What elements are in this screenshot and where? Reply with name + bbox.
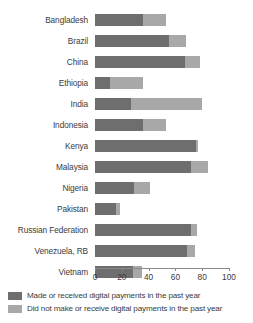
bar-segment-series-1	[143, 119, 166, 131]
bar-row: Russian Federation	[0, 219, 253, 240]
bar-row: Indonesia	[0, 114, 253, 135]
bar-segment-series-1	[116, 203, 120, 215]
bar-row: Venezuela, RB	[0, 240, 253, 261]
category-label: Venezuela, RB	[0, 240, 88, 261]
bar-segment-series-1	[185, 56, 200, 68]
bar-row: Kenya	[0, 135, 253, 156]
bar-stack	[95, 182, 229, 194]
bar-stack	[95, 14, 229, 26]
bar-segment-series-0	[95, 161, 191, 173]
bar-segment-series-0	[95, 203, 116, 215]
legend-item[interactable]: Made or received digital payments in the…	[8, 289, 253, 302]
category-label: Indonesia	[0, 114, 88, 135]
bar-row: India	[0, 93, 253, 114]
x-axis-tick-label: 60	[171, 272, 180, 282]
bar-stack	[95, 56, 229, 68]
x-axis-tick	[229, 268, 230, 271]
stacked-bar-chart: BangladeshBrazilChinaEthiopiaIndiaIndone…	[0, 0, 253, 323]
bar-segment-series-1	[143, 14, 166, 26]
legend-label: Did not make or receive digital payments…	[27, 304, 222, 313]
bar-segment-series-0	[95, 56, 185, 68]
category-label: Nigeria	[0, 177, 88, 198]
legend-swatch-did-not	[8, 305, 22, 313]
x-axis-tick	[175, 268, 176, 271]
x-axis-tick-label: 0	[93, 272, 98, 282]
bar-stack	[95, 77, 229, 89]
bar-stack	[95, 119, 229, 131]
bar-row: Ethiopia	[0, 72, 253, 93]
category-label: Brazil	[0, 30, 88, 51]
x-axis-tick	[202, 268, 203, 271]
bar-segment-series-0	[95, 140, 196, 152]
category-label: Russian Federation	[0, 219, 88, 240]
bar-row: Malaysia	[0, 156, 253, 177]
x-axis-tick-label: 80	[198, 272, 207, 282]
bar-stack	[95, 161, 229, 173]
x-axis-tick-label: 20	[117, 272, 126, 282]
category-label: Bangladesh	[0, 9, 88, 30]
bar-segment-series-0	[95, 182, 134, 194]
bar-segment-series-1	[131, 98, 202, 110]
legend-label: Made or received digital payments in the…	[27, 291, 200, 300]
bar-row: Nigeria	[0, 177, 253, 198]
bar-row: Brazil	[0, 30, 253, 51]
bar-segment-series-0	[95, 77, 110, 89]
bar-segment-series-1	[191, 161, 207, 173]
bar-segment-series-0	[95, 245, 187, 257]
bar-segment-series-0	[95, 35, 169, 47]
bar-stack	[95, 224, 229, 236]
category-label: Pakistan	[0, 198, 88, 219]
bar-stack	[95, 245, 229, 257]
bar-stack	[95, 35, 229, 47]
bar-segment-series-0	[95, 224, 191, 236]
category-label: China	[0, 51, 88, 72]
bar-row: China	[0, 51, 253, 72]
bar-segment-series-0	[95, 119, 143, 131]
bar-stack	[95, 140, 229, 152]
x-axis-tick-label: 100	[222, 272, 236, 282]
plot-area: BangladeshBrazilChinaEthiopiaIndiaIndone…	[0, 0, 253, 268]
bar-stack	[95, 203, 229, 215]
x-axis-tick	[95, 268, 96, 271]
category-label: Kenya	[0, 135, 88, 156]
bar-segment-series-1	[196, 140, 199, 152]
bar-segment-series-1	[187, 245, 195, 257]
bar-segment-series-1	[134, 182, 150, 194]
x-axis-tick	[149, 268, 150, 271]
bar-segment-series-1	[110, 77, 144, 89]
bar-segment-series-1	[169, 35, 186, 47]
category-label: India	[0, 93, 88, 114]
bar-segment-series-0	[95, 14, 143, 26]
bar-stack	[95, 98, 229, 110]
bar-segment-series-0	[95, 98, 131, 110]
legend-swatch-made-received	[8, 292, 22, 300]
category-label: Ethiopia	[0, 72, 88, 93]
legend-item[interactable]: Did not make or receive digital payments…	[8, 302, 253, 315]
bar-row: Pakistan	[0, 198, 253, 219]
x-axis-tick	[122, 268, 123, 271]
x-axis-line	[95, 268, 229, 269]
x-axis-tick-label: 40	[144, 272, 153, 282]
chart-legend: Made or received digital payments in the…	[8, 289, 253, 315]
bar-row: Vietnam	[0, 261, 253, 282]
category-label: Vietnam	[0, 261, 88, 282]
bar-segment-series-1	[191, 224, 196, 236]
category-label: Malaysia	[0, 156, 88, 177]
bar-row: Bangladesh	[0, 9, 253, 30]
